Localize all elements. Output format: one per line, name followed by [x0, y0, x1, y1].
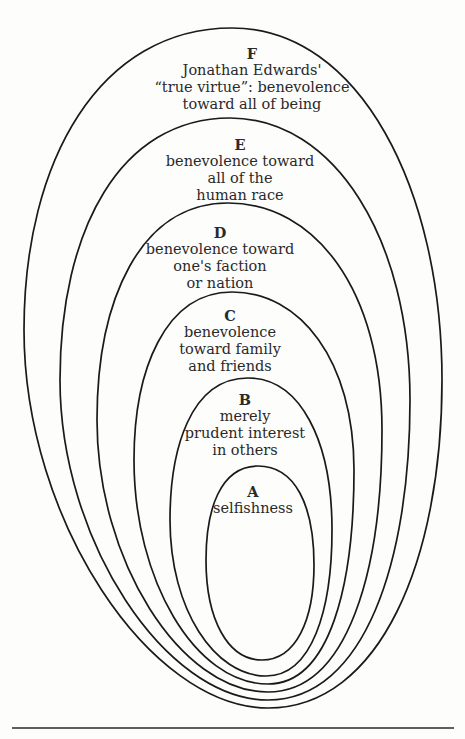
- level-letter: E: [166, 136, 314, 153]
- level-text-line: benevolence: [179, 324, 281, 341]
- level-text-line: one's faction: [146, 258, 294, 275]
- level-text-line: benevolence toward: [166, 153, 314, 170]
- level-text-line: toward family: [179, 341, 281, 358]
- label-c: C benevolence toward family and friends: [179, 307, 281, 375]
- level-letter: B: [185, 391, 305, 408]
- level-text-line: “true virtue”: benevolence: [154, 79, 349, 96]
- level-text-line: benevolence toward: [146, 241, 294, 258]
- level-text-line: selfishness: [213, 500, 293, 517]
- level-text-line: all of the: [166, 170, 314, 187]
- level-letter: F: [154, 45, 349, 62]
- label-f: F Jonathan Edwards' “true virtue”: benev…: [154, 45, 349, 113]
- level-text-line: or nation: [146, 275, 294, 292]
- level-text-line: merely: [185, 408, 305, 425]
- level-letter: A: [213, 483, 293, 500]
- label-e: E benevolence toward all of the human ra…: [166, 136, 314, 204]
- label-b: B merely prudent interest in others: [185, 391, 305, 459]
- level-text-line: toward all of being: [154, 96, 349, 113]
- level-text-line: prudent interest: [185, 425, 305, 442]
- level-text-line: Jonathan Edwards': [154, 62, 349, 79]
- level-text-line: in others: [185, 442, 305, 459]
- level-letter: C: [179, 307, 281, 324]
- level-text-line: and friends: [179, 358, 281, 375]
- label-a: A selfishness: [213, 483, 293, 517]
- label-d: D benevolence toward one's faction or na…: [146, 224, 294, 292]
- level-letter: D: [146, 224, 294, 241]
- level-text-line: human race: [166, 187, 314, 204]
